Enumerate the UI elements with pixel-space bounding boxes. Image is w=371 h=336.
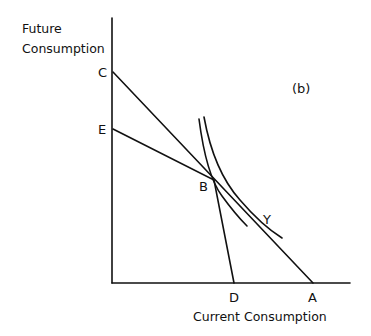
intertemporal-consumption-diagram: Future Consumption Current Consumption (… [0,0,371,336]
point-label-E: E [98,122,106,137]
point-label-B: B [199,179,208,194]
point-label-D: D [229,290,239,305]
indifference-curve-inner [199,119,247,226]
y-axis-title-line2: Consumption [22,41,105,56]
point-label-Y: Y [262,212,271,227]
point-label-A: A [308,290,317,305]
y-axis-title-line1: Future [22,21,62,36]
point-label-C: C [98,65,107,80]
x-axis-title: Current Consumption [193,309,327,324]
panel-label: (b) [292,81,310,96]
budget-line-EBD [113,129,234,283]
